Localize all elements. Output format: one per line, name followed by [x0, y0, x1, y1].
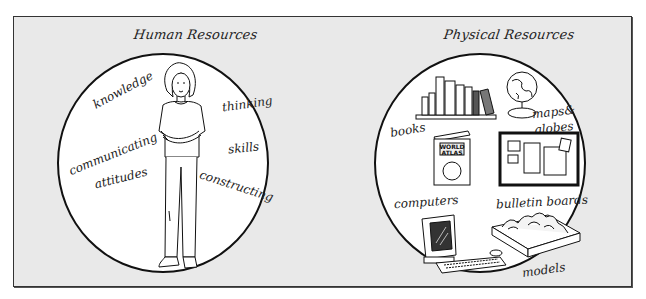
terrain-model-icon [488, 207, 584, 265]
bookshelf-icon [414, 69, 498, 125]
physical-resources-title: Physical Resources [443, 27, 576, 42]
bulletin-board-icon [498, 131, 580, 187]
human-resources-title: Human Resources [133, 27, 259, 42]
svg-text:ATLAS: ATLAS [441, 149, 462, 156]
diagram-frame: Human Resources knowledge thinking commu… [13, 16, 632, 287]
world-atlas-icon: WORLD ATLAS [430, 129, 474, 187]
